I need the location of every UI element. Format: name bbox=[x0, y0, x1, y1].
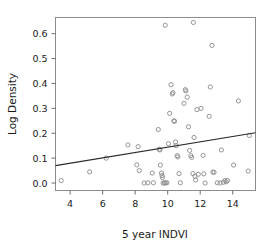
x-tick-label: 14 bbox=[227, 198, 239, 209]
x-tick-label: 4 bbox=[67, 198, 73, 209]
data-point-marker bbox=[202, 172, 206, 176]
data-point-marker bbox=[163, 23, 167, 27]
scatter-plot-figure: 468101214 0.00.10.20.30.40.50.6 5 year I… bbox=[0, 0, 271, 247]
data-point-marker bbox=[182, 101, 186, 105]
data-point-marker bbox=[158, 163, 162, 167]
data-point-marker bbox=[219, 148, 223, 152]
data-point-marker bbox=[166, 142, 170, 146]
y-tick-label: 0.4 bbox=[32, 78, 47, 89]
data-point-marker bbox=[236, 99, 240, 103]
y-tick-label: 0.0 bbox=[32, 178, 47, 189]
data-point-marker bbox=[59, 178, 63, 182]
y-tick-label: 0.5 bbox=[32, 53, 47, 64]
data-point-marker bbox=[186, 125, 190, 129]
data-point-marker bbox=[203, 181, 207, 185]
data-point-marker bbox=[199, 106, 203, 110]
data-point-marker bbox=[246, 169, 250, 173]
data-point-marker bbox=[150, 171, 154, 175]
data-point-marker bbox=[169, 83, 173, 87]
data-point-marker bbox=[168, 111, 172, 115]
data-point-marker bbox=[185, 95, 189, 99]
data-point-marker bbox=[136, 145, 140, 149]
x-tick-label: 8 bbox=[132, 198, 138, 209]
data-point-marker bbox=[231, 163, 235, 167]
y-axis-tick-marks bbox=[52, 34, 56, 183]
x-axis-title: 5 year INDVI bbox=[122, 228, 188, 240]
data-point-marker bbox=[126, 143, 130, 147]
data-point-marker bbox=[207, 114, 211, 118]
x-tick-label: 10 bbox=[162, 198, 174, 209]
data-point-marker bbox=[188, 148, 192, 152]
y-axis-title: Log Density bbox=[6, 73, 18, 135]
regression-line bbox=[56, 133, 256, 166]
y-tick-label: 0.2 bbox=[32, 128, 47, 139]
data-point-marker bbox=[151, 181, 155, 185]
data-point-marker bbox=[210, 43, 214, 47]
data-point-marker bbox=[177, 171, 181, 175]
y-axis-tick-labels: 0.00.10.20.30.40.50.6 bbox=[32, 28, 47, 188]
x-tick-label: 12 bbox=[194, 198, 206, 209]
data-point-marker bbox=[137, 168, 141, 172]
chart-canvas: 468101214 0.00.10.20.30.40.50.6 5 year I… bbox=[0, 0, 271, 247]
data-point-marker bbox=[195, 108, 199, 112]
x-axis-tick-labels: 468101214 bbox=[67, 198, 239, 209]
y-tick-label: 0.1 bbox=[32, 153, 47, 164]
x-tick-label: 6 bbox=[100, 198, 106, 209]
data-point-marker bbox=[178, 181, 182, 185]
x-axis-tick-marks bbox=[70, 191, 233, 195]
data-point-marker bbox=[191, 20, 195, 24]
plot-frame bbox=[56, 18, 256, 191]
data-point-marker bbox=[192, 135, 196, 139]
data-point-marker bbox=[156, 127, 160, 131]
y-tick-label: 0.6 bbox=[32, 28, 47, 39]
y-tick-label: 0.3 bbox=[32, 103, 47, 114]
data-point-marker bbox=[88, 170, 92, 174]
data-point-marker bbox=[196, 172, 200, 176]
data-point-marker bbox=[201, 153, 205, 157]
data-point-marker bbox=[208, 85, 212, 89]
data-point-marker bbox=[135, 163, 139, 167]
